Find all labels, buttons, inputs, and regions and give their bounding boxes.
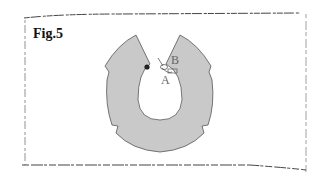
figure-canvas: Fig.5 B A [0, 0, 328, 186]
point-a-label: A [161, 73, 170, 87]
collar-pattern-shape [105, 35, 213, 152]
marker-dot [144, 64, 149, 69]
point-b-label: B [171, 53, 179, 67]
figure-title: Fig.5 [33, 26, 63, 41]
